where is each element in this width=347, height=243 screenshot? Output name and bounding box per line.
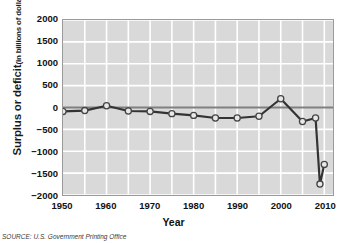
source-note: SOURCE: U.S. Government Printing Office: [2, 233, 126, 240]
x-axis-tick-label: 2010: [305, 200, 345, 211]
data-point-marker: [212, 115, 218, 121]
data-point-marker: [278, 96, 284, 102]
x-axis-tick-label: 1990: [217, 200, 257, 211]
y-axis-tick-label: −1000: [16, 147, 58, 156]
y-axis-tick-label: 2000: [16, 14, 58, 23]
data-point-marker: [82, 107, 88, 113]
plot-area: [62, 19, 334, 196]
y-axis-tick-label: 0: [16, 103, 58, 112]
y-axis-tick-label: 1500: [16, 36, 58, 45]
data-point-marker: [317, 181, 323, 187]
x-axis-tick-label: 1970: [130, 200, 170, 211]
y-axis-tick-label: −2000: [16, 191, 58, 200]
x-axis-tick-labels: 1950196019701980199020002010: [0, 200, 347, 214]
y-axis-tick-label: 1000: [16, 58, 58, 67]
x-axis-tick-label: 2000: [261, 200, 301, 211]
data-point-marker: [299, 118, 305, 124]
x-axis-title: Year: [0, 216, 347, 228]
data-point-marker: [147, 108, 153, 114]
y-axis-tick-label: −1500: [16, 169, 58, 178]
data-point-marker: [191, 112, 197, 118]
data-point-marker: [169, 111, 175, 117]
data-point-marker: [125, 108, 131, 114]
data-point-marker: [313, 115, 319, 121]
x-axis-tick-label: 1950: [42, 200, 82, 211]
data-point-marker: [63, 108, 66, 114]
data-point-marker: [256, 113, 262, 119]
data-series-layer: [63, 20, 333, 195]
y-axis-tick-label: −500: [16, 125, 58, 134]
x-axis-tick-label: 1980: [174, 200, 214, 211]
y-axis-tick-label: 500: [16, 80, 58, 89]
x-axis-tick-label: 1960: [86, 200, 126, 211]
data-point-marker: [234, 115, 240, 121]
budget-deficit-chart-figure: Surplus or deficit(in billions of dollar…: [0, 0, 347, 243]
data-point-marker: [321, 161, 327, 167]
data-point-marker: [103, 103, 109, 109]
